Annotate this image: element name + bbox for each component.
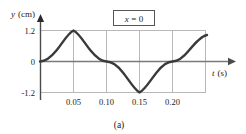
x-axis-title: t(s) [212, 68, 227, 78]
y-axis-title: y(cm) [10, 9, 35, 19]
annotation-box-text: x=0 [124, 14, 144, 24]
annotation-variable: x [124, 14, 129, 24]
xtick-label-0.15: 0.15 [132, 97, 147, 107]
x-axis-unit: (s) [218, 68, 228, 78]
annotation-value: 0 [139, 14, 144, 24]
figure-caption: (a) [114, 120, 125, 131]
xtick-label-0.20: 0.20 [165, 97, 180, 107]
annotation-equals: = [131, 14, 136, 24]
annotation-box: x=0 [114, 11, 155, 26]
y-axis-symbol: y [10, 9, 15, 19]
y-axis-unit: (cm) [18, 9, 35, 19]
ytick-label-0: 0 [31, 57, 35, 67]
xtick-label-0.10: 0.10 [99, 97, 114, 107]
ytick-label-minus-1.2: -1.2 [22, 88, 35, 98]
figure-panel-a: 1.2 0 -1.2 0.05 0.10 0.15 0.20 y(cm) t(s… [0, 0, 246, 134]
ytick-label-1.2: 1.2 [24, 26, 35, 36]
wave-graph-svg: 1.2 0 -1.2 0.05 0.10 0.15 0.20 y(cm) t(s… [0, 0, 246, 134]
xtick-label-0.05: 0.05 [66, 97, 81, 107]
